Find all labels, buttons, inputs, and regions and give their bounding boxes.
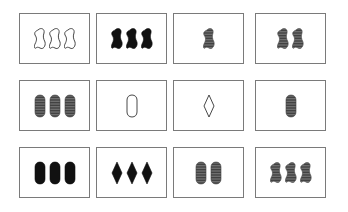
squiggle-shape (111, 28, 122, 48)
oval-striped-icon (64, 94, 76, 118)
oval-shape (127, 95, 137, 117)
squiggle-shape (277, 28, 288, 48)
oval-shape (286, 95, 296, 117)
squiggle-striped-icon (285, 161, 297, 185)
diamond-solid-icon (111, 161, 123, 185)
diamond-solid-icon (141, 161, 153, 185)
squiggle-open-icon (34, 27, 46, 51)
oval-striped-icon (195, 161, 207, 185)
set-card[interactable] (255, 13, 326, 64)
squiggle-shape (285, 162, 296, 182)
set-card[interactable] (19, 80, 90, 131)
squiggle-shape (300, 162, 311, 182)
oval-striped-icon (49, 94, 61, 118)
squiggle-shape (141, 28, 152, 48)
oval-striped-icon (285, 94, 297, 118)
set-card[interactable] (19, 147, 90, 198)
oval-shape (35, 162, 45, 184)
diamond-shape (127, 162, 137, 184)
set-card[interactable] (173, 13, 244, 64)
oval-shape (65, 162, 75, 184)
squiggle-shape (270, 162, 281, 182)
set-card[interactable] (255, 80, 326, 131)
oval-shape (196, 162, 206, 184)
set-card[interactable] (173, 80, 244, 131)
squiggle-striped-icon (300, 161, 312, 185)
squiggle-striped-icon (292, 27, 304, 51)
set-card[interactable] (173, 147, 244, 198)
set-card[interactable] (96, 80, 167, 131)
diamond-solid-icon (126, 161, 138, 185)
squiggle-solid-icon (126, 27, 138, 51)
oval-shape (35, 95, 45, 117)
squiggle-striped-icon (270, 161, 282, 185)
set-card[interactable] (96, 147, 167, 198)
oval-shape (50, 162, 60, 184)
squiggle-open-icon (64, 27, 76, 51)
oval-solid-icon (64, 161, 76, 185)
squiggle-shape (292, 28, 303, 48)
oval-solid-icon (34, 161, 46, 185)
squiggle-solid-icon (141, 27, 153, 51)
oval-shape (211, 162, 221, 184)
squiggle-shape (34, 28, 45, 48)
diamond-shape (204, 95, 214, 117)
diamond-open-icon (203, 94, 215, 118)
oval-striped-icon (34, 94, 46, 118)
squiggle-solid-icon (111, 27, 123, 51)
squiggle-striped-icon (203, 27, 215, 51)
squiggle-shape (126, 28, 137, 48)
squiggle-striped-icon (277, 27, 289, 51)
oval-solid-icon (49, 161, 61, 185)
diamond-shape (112, 162, 122, 184)
squiggle-open-icon (49, 27, 61, 51)
set-card[interactable] (19, 13, 90, 64)
oval-striped-icon (210, 161, 222, 185)
squiggle-shape (49, 28, 60, 48)
oval-open-icon (126, 94, 138, 118)
set-card[interactable] (96, 13, 167, 64)
squiggle-shape (64, 28, 75, 48)
set-card[interactable] (255, 147, 326, 198)
oval-shape (50, 95, 60, 117)
squiggle-shape (203, 28, 214, 48)
oval-shape (65, 95, 75, 117)
diamond-shape (142, 162, 152, 184)
